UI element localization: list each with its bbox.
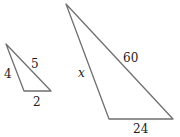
- small-left-side-label: 4: [4, 67, 12, 81]
- small-hypotenuse-label: 5: [31, 57, 39, 71]
- large-bottom-side-label: 24: [133, 122, 149, 136]
- small-bottom-side-label: 2: [33, 95, 41, 109]
- small-triangle-outline: [6, 44, 51, 91]
- similar-triangles-diagram: 4 5 2 x 60 24: [0, 0, 180, 137]
- large-triangle-outline: [66, 4, 173, 119]
- large-hypotenuse-label: 60: [123, 51, 138, 65]
- large-left-side-label: x: [78, 66, 85, 80]
- large-triangle: x 60 24: [66, 4, 173, 136]
- small-triangle: 4 5 2: [4, 44, 51, 109]
